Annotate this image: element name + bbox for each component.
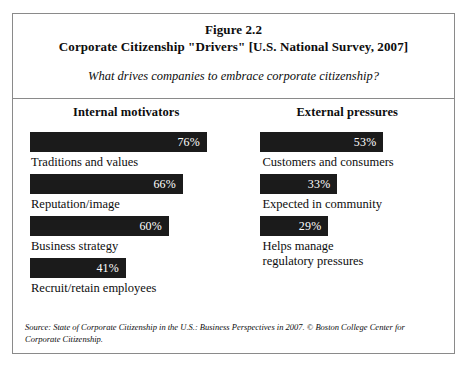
bar-value-helps-manage-regulatory-pressures: 29%: [299, 220, 329, 232]
bar-group-reputation-image: 66% Reputation/image: [30, 174, 244, 216]
figure-header: Figure 2.2 Corporate Citizenship "Driver…: [13, 14, 454, 99]
bar-group-expected-in-community: 33% Expected in community: [260, 174, 454, 216]
column-header-internal-motivators: Internal motivators: [30, 105, 244, 120]
bar-label-recruit-retain-employees: Recruit/retain employees: [30, 278, 244, 300]
bar-expected-in-community: 33%: [260, 174, 337, 194]
bar-label-helps-manage-regulatory-pressures: Helps manage regulatory pressures: [260, 236, 454, 273]
bar-recruit-retain-employees: 41%: [30, 258, 126, 278]
bar-customers-and-consumers: 53%: [260, 132, 383, 152]
bar-reputation-image: 66%: [30, 174, 183, 194]
chart-body: Internal motivators 76% Traditions and v…: [13, 99, 454, 318]
figure-frame: Figure 2.2 Corporate Citizenship "Driver…: [12, 13, 455, 354]
bar-value-recruit-retain-employees: 41%: [96, 262, 126, 274]
source-note: Source: State of Corporate Citizenship i…: [13, 318, 454, 353]
figure-title: Corporate Citizenship "Drivers" [U.S. Na…: [23, 38, 444, 55]
bar-group-business-strategy: 60% Business strategy: [30, 216, 244, 258]
bar-value-business-strategy: 60%: [139, 220, 169, 232]
bar-traditions-and-values: 76%: [30, 132, 207, 152]
bar-group-customers-and-consumers: 53% Customers and consumers: [260, 132, 454, 174]
column-header-external-pressures: External pressures: [260, 105, 454, 120]
bar-label-expected-in-community: Expected in community: [260, 194, 454, 216]
bar-helps-manage-regulatory-pressures: 29%: [260, 216, 328, 236]
figure-question: What drives companies to embrace corpora…: [23, 68, 444, 84]
bar-value-expected-in-community: 33%: [308, 178, 338, 190]
figure-number: Figure 2.2: [23, 22, 444, 38]
bar-group-traditions-and-values: 76% Traditions and values: [30, 132, 244, 174]
bar-value-traditions-and-values: 76%: [177, 136, 207, 148]
bar-label-customers-and-consumers: Customers and consumers: [260, 152, 454, 174]
bar-value-customers-and-consumers: 53%: [354, 136, 384, 148]
bar-business-strategy: 60%: [30, 216, 169, 236]
bar-label-business-strategy: Business strategy: [30, 236, 244, 258]
chart-column-internal-motivators: Internal motivators 76% Traditions and v…: [13, 105, 244, 318]
bar-group-helps-manage-regulatory-pressures: 29% Helps manage regulatory pressures: [260, 216, 454, 273]
bar-label-traditions-and-values: Traditions and values: [30, 152, 244, 174]
chart-column-external-pressures: External pressures 53% Customers and con…: [244, 105, 454, 318]
bar-group-recruit-retain-employees: 41% Recruit/retain employees: [30, 258, 244, 300]
bar-label-reputation-image: Reputation/image: [30, 194, 244, 216]
bar-value-reputation-image: 66%: [153, 178, 183, 190]
